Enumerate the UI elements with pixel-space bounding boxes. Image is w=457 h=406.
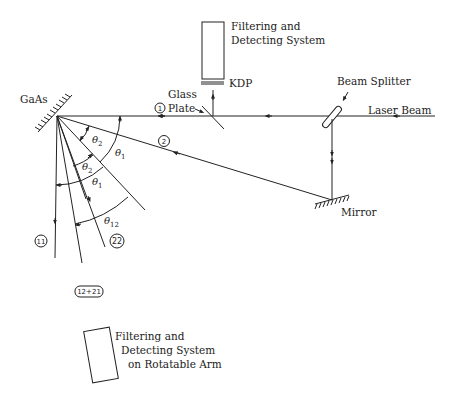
beam-splitter-label: Beam Splitter [337,75,411,88]
kdp-label: KDP [229,77,252,90]
laser-beam-label: Laser Beam [368,104,431,117]
top-detector-box [202,22,224,79]
theta2-out-label: θ2 [82,160,93,178]
beam-12-21-number: 12+21 [77,288,101,296]
beam-11-number: 11 [37,238,46,246]
theta12-label: θ12 [104,214,119,232]
theta1-in-label: θ1 [115,146,126,164]
theta2-in-label: θ2 [92,133,103,151]
plate-label: Plate [168,102,195,115]
arc-theta12 [75,197,128,224]
gaas-label: GaAs [20,93,48,106]
bottom-detector-label-1: Filtering and [115,330,184,343]
theta1-out-label: θ1 [92,175,103,193]
output-ray-11 [55,116,57,258]
top-detector-label-1: Filtering and [231,20,300,33]
beam-2-number: 2 [162,138,166,146]
bottom-detector-label-3: on Rotatable Arm [128,358,222,371]
bottom-detector-box [84,327,119,383]
output-ray-extra [57,116,86,199]
beam-1-number: 1 [158,105,162,113]
kdp-crystal [201,82,224,84]
top-detector-label-2: Detecting System [231,34,325,47]
glass-label: Glass [168,88,197,101]
mirror-label: Mirror [341,206,377,219]
optical-setup-diagram: 1 2 11 22 12+21 GaAs Glass Plate KDP Fil… [0,0,457,406]
beam-22-number: 22 [112,237,122,246]
bottom-detector-label-2: Detecting System [121,344,215,357]
